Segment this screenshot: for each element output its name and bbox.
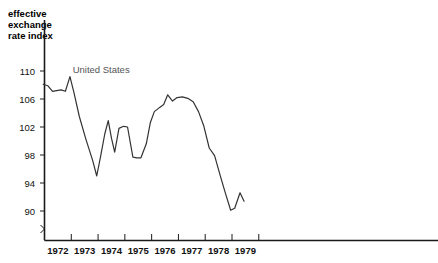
x-tick-label: 1978	[208, 245, 229, 256]
y-tick-label: 94	[24, 178, 35, 189]
x-tick-label: 1977	[181, 245, 202, 256]
axis-title-line-1: effective	[8, 8, 47, 19]
x-axis: 19721973197419751976197719781979	[45, 234, 259, 256]
effective-exchange-rate-line-chart: effective exchange rate index 1101061029…	[0, 0, 438, 263]
y-tick-label: 98	[24, 150, 35, 161]
y-tick-label: 90	[24, 206, 35, 217]
axis-title-block: effective exchange rate index	[8, 8, 54, 41]
y-tick-label: 110	[20, 66, 35, 77]
y-tick-label: 102	[19, 122, 35, 133]
y-axis: 110106102989490	[19, 66, 44, 217]
x-tick-label: 1974	[101, 245, 123, 256]
x-tick-label: 1972	[47, 245, 68, 256]
series-line-united-states	[43, 77, 244, 211]
chart-container: effective exchange rate index 1101061029…	[0, 0, 438, 263]
x-tick-label: 1975	[128, 245, 150, 256]
axis-title-line-3: rate index	[8, 30, 54, 41]
x-tick-label: 1979	[235, 245, 256, 256]
series-label-united-states: United States	[73, 64, 130, 75]
y-tick-label: 106	[19, 94, 35, 105]
x-tick-label: 1973	[74, 245, 95, 256]
x-tick-label: 1976	[154, 245, 175, 256]
